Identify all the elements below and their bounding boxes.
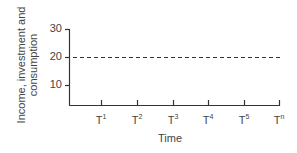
y-axis-label: Income, investment and consumption [15, 0, 39, 130]
x-tick-label: Tn [267, 113, 291, 126]
x-axis-label: Time [158, 132, 182, 144]
x-tick-label: T4 [196, 113, 220, 126]
y-tick-label: 30 [42, 22, 62, 34]
x-tick-label: T5 [232, 113, 256, 126]
x-tick-label: T2 [125, 113, 149, 126]
x-tick-label: T3 [161, 113, 185, 126]
y-tick-label: 10 [42, 78, 62, 90]
x-tick-label: T1 [89, 113, 113, 126]
y-tick-label: 20 [42, 50, 62, 62]
